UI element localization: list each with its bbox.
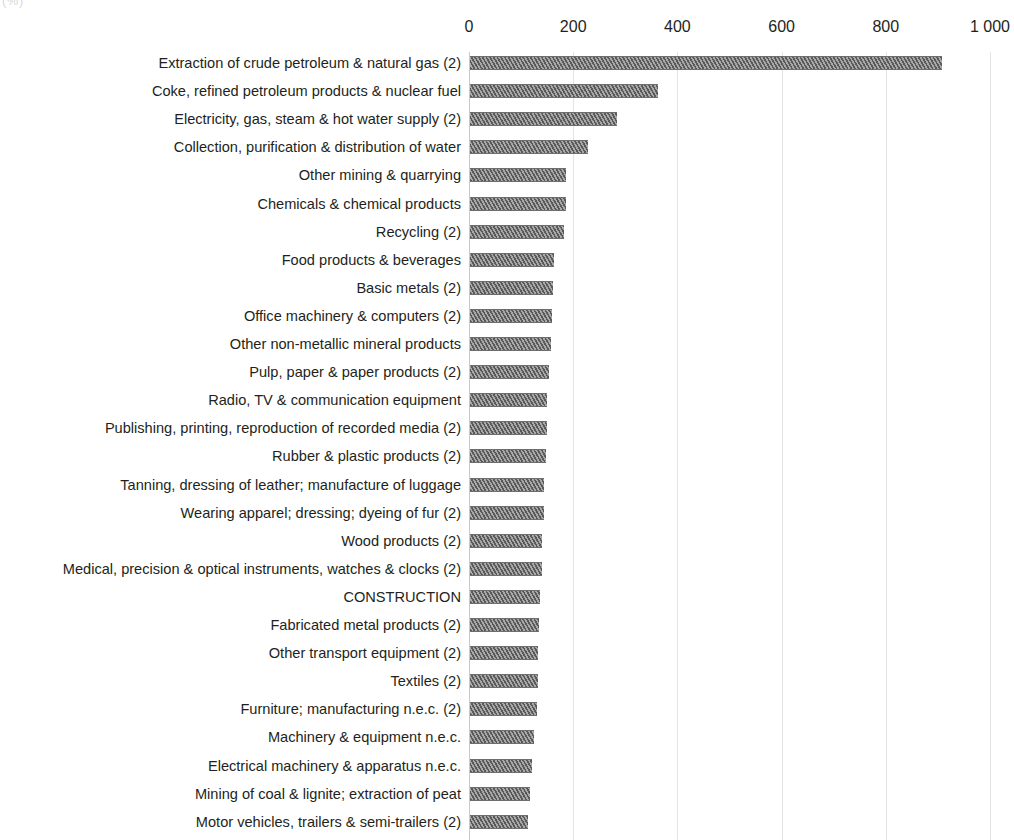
bar bbox=[470, 225, 564, 239]
category-label: CONSTRUCTION bbox=[0, 589, 461, 605]
bar bbox=[470, 393, 547, 407]
category-label: Basic metals (2) bbox=[0, 280, 461, 296]
category-label: Furniture; manufacturing n.e.c. (2) bbox=[0, 701, 461, 717]
category-label: Rubber & plastic products (2) bbox=[0, 448, 461, 464]
bar bbox=[470, 140, 588, 154]
category-label: Machinery & equipment n.e.c. bbox=[0, 729, 461, 745]
category-label: Office machinery & computers (2) bbox=[0, 308, 461, 324]
category-label: Wearing apparel; dressing; dyeing of fur… bbox=[0, 505, 461, 521]
category-label: Other mining & quarrying bbox=[0, 167, 461, 183]
x-axis-tick-label: 200 bbox=[560, 18, 587, 36]
bar bbox=[470, 309, 552, 323]
bar bbox=[470, 534, 542, 548]
bar bbox=[470, 815, 528, 829]
bar bbox=[470, 168, 566, 182]
bar bbox=[470, 730, 534, 744]
bar bbox=[470, 618, 539, 632]
bar bbox=[470, 253, 554, 267]
category-label: Motor vehicles, trailers & semi-trailers… bbox=[0, 814, 461, 830]
category-label: Extraction of crude petroleum & natural … bbox=[0, 55, 461, 71]
category-label: Pulp, paper & paper products (2) bbox=[0, 364, 461, 380]
x-axis-tick-labels: 02004006008001 000 bbox=[0, 18, 1014, 40]
category-label: Recycling (2) bbox=[0, 224, 461, 240]
category-label: Publishing, printing, reproduction of re… bbox=[0, 420, 461, 436]
category-label: Electrical machinery & apparatus n.e.c. bbox=[0, 758, 461, 774]
bar bbox=[470, 674, 538, 688]
bar-series bbox=[469, 52, 1014, 840]
category-label: Chemicals & chemical products bbox=[0, 196, 461, 212]
category-label: Electricity, gas, steam & hot water supp… bbox=[0, 111, 461, 127]
bar bbox=[470, 56, 942, 70]
plot-area bbox=[469, 52, 1014, 840]
bar bbox=[470, 421, 547, 435]
bar bbox=[470, 197, 566, 211]
bar bbox=[470, 646, 538, 660]
bar bbox=[470, 84, 658, 98]
category-label: Textiles (2) bbox=[0, 673, 461, 689]
category-label: Fabricated metal products (2) bbox=[0, 617, 461, 633]
x-axis-tick-label: 600 bbox=[768, 18, 795, 36]
bar bbox=[470, 562, 542, 576]
bar bbox=[470, 506, 544, 520]
category-label: Wood products (2) bbox=[0, 533, 461, 549]
bar bbox=[470, 759, 532, 773]
x-axis-tick-label: 0 bbox=[465, 18, 474, 36]
category-label: Food products & beverages bbox=[0, 252, 461, 268]
bar bbox=[470, 337, 551, 351]
category-label: Medical, precision & optical instruments… bbox=[0, 561, 461, 577]
bar bbox=[470, 281, 553, 295]
bar bbox=[470, 787, 530, 801]
bar bbox=[470, 112, 617, 126]
bar bbox=[470, 449, 546, 463]
x-axis-tick-label: 400 bbox=[664, 18, 691, 36]
category-label: Mining of coal & lignite; extraction of … bbox=[0, 786, 461, 802]
bar bbox=[470, 365, 549, 379]
bar bbox=[470, 702, 537, 716]
category-label: Collection, purification & distribution … bbox=[0, 139, 461, 155]
category-label: Other non-metallic mineral products bbox=[0, 336, 461, 352]
category-label: Radio, TV & communication equipment bbox=[0, 392, 461, 408]
category-label: Other transport equipment (2) bbox=[0, 645, 461, 661]
unit-label: (%) bbox=[2, 0, 24, 7]
bar bbox=[470, 478, 544, 492]
x-axis-tick-label: 800 bbox=[872, 18, 899, 36]
bar-chart: (%) 02004006008001 000 Extraction of cru… bbox=[0, 0, 1014, 840]
category-label: Tanning, dressing of leather; manufactur… bbox=[0, 477, 461, 493]
category-labels: Extraction of crude petroleum & natural … bbox=[0, 52, 461, 840]
bar bbox=[470, 590, 540, 604]
category-label: Coke, refined petroleum products & nucle… bbox=[0, 83, 461, 99]
x-axis-tick-label: 1 000 bbox=[970, 18, 1010, 36]
